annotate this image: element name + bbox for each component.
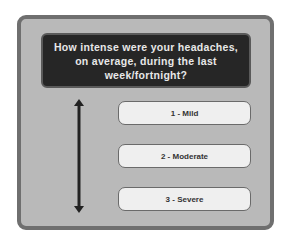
double-arrow-icon — [74, 99, 84, 213]
option-severe-button[interactable]: 3 - Severe — [118, 187, 251, 211]
option-mild-button[interactable]: 1 - Mild — [118, 101, 251, 125]
question-text: How intense were your headaches, on aver… — [41, 33, 251, 88]
option-moderate-button[interactable]: 2 - Moderate — [118, 144, 251, 168]
